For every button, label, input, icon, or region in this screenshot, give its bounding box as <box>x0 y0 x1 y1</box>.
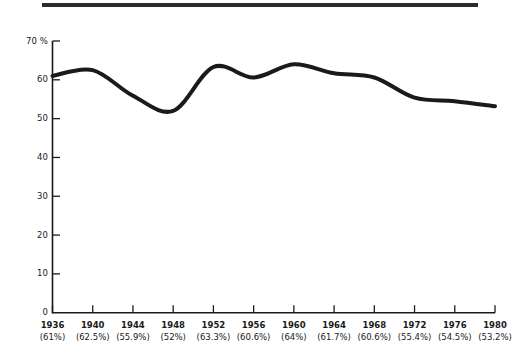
y-tick-label: 40 <box>6 152 48 162</box>
y-tick-label: 0 <box>6 307 48 317</box>
chart-plot-area <box>0 0 526 364</box>
y-tick-label: 60 <box>6 74 48 84</box>
chart-figure: 70 %6050403020100 1936(61%)1940(62.5%)19… <box>0 0 526 364</box>
x-tick-label: 1980(53.2%) <box>465 319 525 343</box>
y-tick-label: 10 <box>6 268 48 278</box>
y-tick-label: 70 % <box>6 36 48 46</box>
x-tick-year: 1980 <box>465 319 525 331</box>
chart-line-series <box>53 64 496 112</box>
chart-axes <box>53 41 496 314</box>
y-tick-label: 30 <box>6 191 48 201</box>
y-tick-label: 20 <box>6 230 48 240</box>
y-tick-label: 50 <box>6 113 48 123</box>
chart-x-ticks <box>53 305 496 313</box>
x-tick-value: (53.2%) <box>465 331 525 343</box>
